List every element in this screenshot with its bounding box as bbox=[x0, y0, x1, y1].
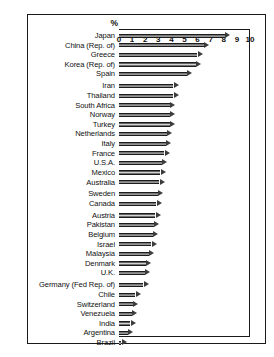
bar-label-norway: Norway bbox=[8, 110, 115, 120]
x-axis-tick-labels: 012345678910 bbox=[0, 17, 274, 29]
bar-arrow bbox=[119, 92, 173, 99]
bar-row: Venezuela bbox=[0, 309, 274, 319]
bar-arrow bbox=[119, 121, 170, 128]
bar-shaft bbox=[119, 213, 155, 217]
bar-chart: % 012345678910 JapanChina (Rep. of)Greec… bbox=[0, 0, 274, 357]
bar-arrowhead-icon bbox=[160, 179, 165, 185]
bar-row: Iran bbox=[0, 81, 274, 91]
bar-arrowhead-icon bbox=[170, 111, 175, 117]
bar-arrow bbox=[119, 301, 133, 308]
bar-row: Norway bbox=[0, 110, 274, 120]
bar-label-switzerland: Switzerland bbox=[8, 300, 115, 310]
bar-row: Pakistan bbox=[0, 220, 274, 230]
bar-shaft bbox=[119, 170, 160, 174]
bar-row: Belgium bbox=[0, 230, 274, 240]
bar-arrow bbox=[119, 82, 173, 89]
bar-shaft bbox=[119, 261, 146, 265]
bar-shaft bbox=[119, 161, 162, 165]
bar-arrowhead-icon bbox=[170, 102, 175, 108]
bar-label-belgium: Belgium bbox=[8, 230, 115, 240]
bar-row: Malaysia bbox=[0, 249, 274, 259]
bar-arrow bbox=[119, 140, 166, 147]
bar-shaft bbox=[119, 271, 145, 275]
bar-shaft bbox=[119, 242, 151, 246]
bar-arrowhead-icon bbox=[156, 212, 161, 218]
bar-arrowhead-icon bbox=[167, 130, 172, 136]
bar-row: Israel bbox=[0, 240, 274, 250]
bar-arrow bbox=[119, 111, 170, 118]
bar-label-denmark: Denmark bbox=[8, 259, 115, 269]
bar-arrow bbox=[119, 291, 135, 298]
bar-arrowhead-icon bbox=[144, 281, 149, 287]
bar-label-japan: Japan bbox=[8, 31, 115, 41]
bar-arrow bbox=[119, 130, 167, 137]
bar-label-austria: Austria bbox=[8, 211, 115, 221]
bar-arrow bbox=[119, 159, 162, 166]
bar-arrowhead-icon bbox=[196, 61, 201, 67]
bar-shaft bbox=[119, 293, 135, 297]
bar-arrow bbox=[119, 241, 151, 248]
bar-row: South Africa bbox=[0, 101, 274, 111]
bar-shaft bbox=[119, 142, 166, 146]
bar-row: India bbox=[0, 319, 274, 329]
bar-row: U.S.A. bbox=[0, 158, 274, 168]
bar-label-israel: Israel bbox=[8, 240, 115, 250]
bar-shaft bbox=[119, 321, 130, 325]
bar-label-turkey: Turkey bbox=[8, 120, 115, 130]
bar-arrow bbox=[119, 169, 160, 176]
bar-row: Switzerland bbox=[0, 300, 274, 310]
bar-row: Spain bbox=[0, 69, 274, 79]
bar-arrowhead-icon bbox=[225, 32, 230, 38]
bar-row: Chile bbox=[0, 290, 274, 300]
bar-shaft bbox=[119, 113, 170, 117]
bar-arrow bbox=[119, 269, 145, 276]
bar-arrowhead-icon bbox=[162, 159, 167, 165]
bar-row: Australia bbox=[0, 178, 274, 188]
bar-arrow bbox=[119, 281, 143, 288]
bar-arrowhead-icon bbox=[174, 92, 179, 98]
bar-arrowhead-icon bbox=[132, 310, 137, 316]
bar-label-u-k: U.K. bbox=[8, 268, 115, 278]
bar-arrow bbox=[119, 250, 149, 257]
bar-arrow bbox=[119, 32, 225, 39]
bar-label-italy: Italy bbox=[8, 139, 115, 149]
bar-arrowhead-icon bbox=[146, 260, 151, 266]
bar-row: U.K. bbox=[0, 268, 274, 278]
bar-row: Argentina bbox=[0, 328, 274, 338]
bar-label-germany-fed-rep-of: Germany (Fed Rep. of) bbox=[8, 280, 115, 290]
bar-arrowhead-icon bbox=[157, 200, 162, 206]
bar-shaft bbox=[119, 202, 156, 206]
bar-arrow bbox=[119, 260, 146, 267]
bar-row: Sweden bbox=[0, 189, 274, 199]
bar-label-korea-rep-of: Korea (Rep. of) bbox=[8, 60, 115, 70]
bar-row: Netherlands bbox=[0, 129, 274, 139]
bar-shaft bbox=[119, 122, 170, 126]
bar-row: Denmark bbox=[0, 259, 274, 269]
bar-label-france: France bbox=[8, 149, 115, 159]
bar-shaft bbox=[119, 132, 167, 136]
bar-arrowhead-icon bbox=[133, 301, 138, 307]
bar-label-iran: Iran bbox=[8, 81, 115, 91]
bar-row: France bbox=[0, 149, 274, 159]
bar-arrowhead-icon bbox=[161, 169, 166, 175]
bar-arrowhead-icon bbox=[136, 291, 141, 297]
bar-arrow bbox=[119, 190, 158, 197]
bar-shaft bbox=[119, 233, 153, 237]
bar-arrow bbox=[119, 231, 153, 238]
bar-row: Japan bbox=[0, 31, 274, 41]
bar-arrowhead-icon bbox=[153, 231, 158, 237]
bar-arrow bbox=[119, 51, 197, 58]
bar-arrowhead-icon bbox=[170, 121, 175, 127]
bar-arrowhead-icon bbox=[149, 250, 154, 256]
bar-arrow bbox=[119, 329, 128, 336]
bar-shaft bbox=[119, 331, 128, 335]
bar-label-netherlands: Netherlands bbox=[8, 129, 115, 139]
bar-shaft bbox=[119, 103, 170, 107]
bar-arrow bbox=[119, 61, 196, 68]
bar-label-china-rep-of: China (Rep. of) bbox=[8, 41, 115, 51]
bar-label-canada: Canada bbox=[8, 199, 115, 209]
bar-arrow bbox=[119, 310, 132, 317]
bar-arrow bbox=[119, 339, 121, 346]
bar-row: Austria bbox=[0, 211, 274, 221]
bar-label-argentina: Argentina bbox=[8, 328, 115, 338]
